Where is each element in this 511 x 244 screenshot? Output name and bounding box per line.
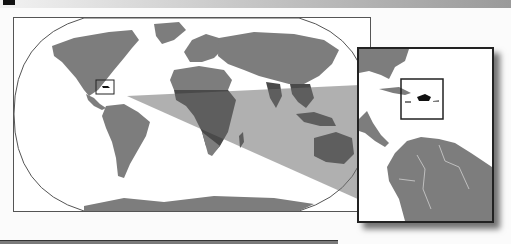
inset-map-panel <box>357 47 494 223</box>
top-bar <box>0 0 511 8</box>
world-map-panel <box>13 17 371 212</box>
bottom-bar <box>0 240 338 244</box>
top-bar-tab <box>3 0 15 5</box>
world-map <box>14 18 370 211</box>
jamaica <box>405 101 411 103</box>
inset-map <box>359 49 492 221</box>
